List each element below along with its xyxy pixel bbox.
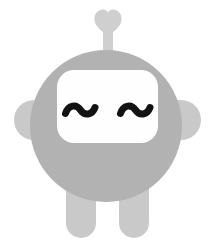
robot-mascot-graphic	[0, 0, 215, 246]
robot-illustration-canvas	[0, 0, 215, 246]
